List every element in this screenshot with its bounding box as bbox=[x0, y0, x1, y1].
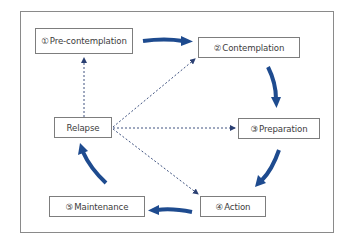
stage-number: ③ bbox=[250, 124, 258, 134]
stage-label: Action bbox=[224, 202, 250, 212]
stage-label: Maintenance bbox=[74, 202, 128, 212]
stage-label: Pre-contemplation bbox=[50, 36, 127, 46]
dashed-arrow-relapse-to-contemplation bbox=[113, 59, 195, 127]
stage-number: ① bbox=[41, 36, 49, 46]
arrow-precontemplation-to-contemplation bbox=[143, 36, 193, 46]
stage-box-preparation: ③ Preparation bbox=[238, 118, 320, 139]
stage-number: ④ bbox=[216, 202, 224, 212]
stage-label: Preparation bbox=[259, 124, 308, 134]
stage-number: ⑤ bbox=[66, 202, 74, 212]
stage-box-contemplation: ② Contemplation bbox=[198, 37, 300, 58]
stage-box-action: ④ Action bbox=[200, 196, 266, 217]
dashed-arrow-relapse-to-action bbox=[113, 129, 198, 194]
stage-label: Relapse bbox=[66, 123, 99, 133]
stage-box-relapse: Relapse bbox=[54, 117, 112, 138]
arrow-action-to-maintenance bbox=[148, 205, 192, 215]
arrow-contemplation-to-preparation bbox=[268, 67, 281, 108]
arrow-preparation-to-action bbox=[255, 150, 279, 187]
stage-box-maintenance: ⑤ Maintenance bbox=[49, 196, 145, 217]
stage-label: Contemplation bbox=[222, 43, 284, 53]
stage-box-precontemplation: ① Pre-contemplation bbox=[35, 28, 133, 54]
arrow-maintenance-to-relapse bbox=[78, 143, 106, 183]
stage-number: ② bbox=[214, 43, 222, 53]
